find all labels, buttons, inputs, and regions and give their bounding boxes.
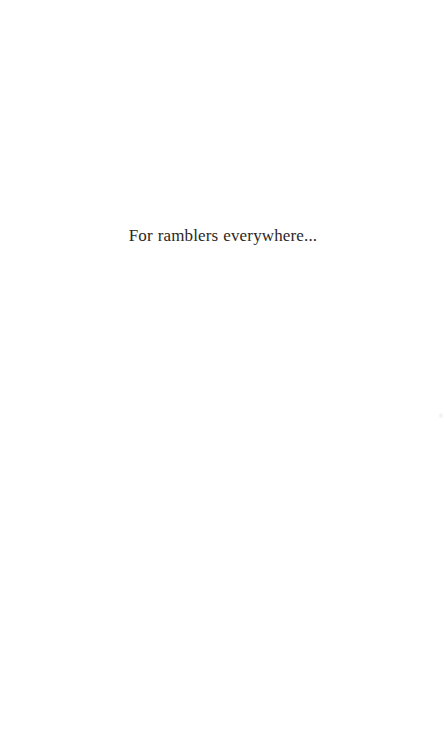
scan-artifact-speck xyxy=(439,413,443,418)
dedication-block: For ramblers everywhere... xyxy=(0,225,446,246)
book-dedication-page: For ramblers everywhere... xyxy=(0,0,446,747)
dedication-text: For ramblers everywhere... xyxy=(129,225,318,246)
